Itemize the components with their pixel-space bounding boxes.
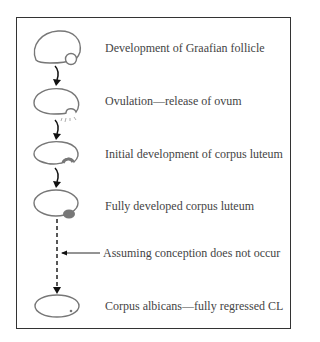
arrow-down-icon — [53, 66, 61, 86]
ovulation-follicle-icon — [34, 89, 79, 122]
graafian-follicle-icon — [34, 31, 80, 65]
corpus-albicans-icon — [35, 295, 79, 317]
initial-corpus-luteum-icon — [34, 142, 78, 164]
arrow-down-icon — [53, 168, 61, 188]
stage-label-initial-cl: Initial development of corpus luteum — [105, 147, 283, 161]
arrow-down-icon — [53, 120, 61, 140]
stage-label-albicans: Corpus albicans—fully regressed CL — [105, 299, 283, 313]
stage-label-full-cl: Fully developed corpus luteum — [105, 199, 254, 213]
condition-pointer-arrow-icon — [61, 251, 100, 256]
condition-label: Assuming conception does not occur — [103, 246, 280, 260]
stage-label-ovulation: Ovulation—release of ovum — [105, 94, 242, 108]
dashed-arrow-icon — [53, 219, 61, 294]
stage-label-graafian: Development of Graafian follicle — [105, 41, 265, 55]
full-corpus-luteum-icon — [34, 190, 78, 219]
